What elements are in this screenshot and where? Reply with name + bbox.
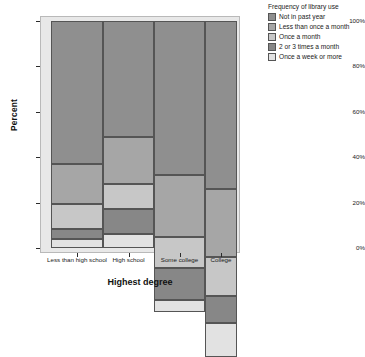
legend-item[interactable]: 2 or 3 times a month	[268, 43, 365, 52]
legend-item-label: Once a week or more	[279, 53, 342, 60]
y-axis-label: Percent	[9, 80, 19, 150]
mosaic-segment	[154, 175, 205, 236]
legend-swatch	[268, 33, 276, 41]
mosaic-segment	[51, 21, 103, 164]
legend-item[interactable]: Once a month	[268, 33, 365, 42]
mosaic-segment	[205, 323, 237, 357]
mosaic-segment	[103, 234, 154, 248]
y-tick-label: 0%	[331, 245, 365, 251]
mosaic-segment	[103, 184, 154, 209]
x-tick-mark	[180, 253, 181, 257]
x-tick-mark	[129, 253, 130, 257]
mosaic-segment	[205, 296, 237, 323]
x-tick-label: College	[191, 256, 251, 264]
mosaic-segment	[205, 189, 237, 257]
legend-item-label: Not in past year	[279, 13, 325, 20]
legend-swatch	[268, 53, 276, 61]
legend-swatch	[268, 13, 276, 21]
x-tick-mark	[77, 253, 78, 257]
x-axis-label: Highest degree	[40, 277, 240, 287]
mosaic-segment	[103, 137, 154, 185]
legend-item[interactable]: Not in past year	[268, 13, 365, 22]
mosaic-segment	[51, 204, 103, 229]
mosaic-segment	[154, 21, 205, 175]
y-tick-label: 80%	[331, 63, 365, 69]
legend-swatch	[268, 43, 276, 51]
legend-item[interactable]: Once a week or more	[268, 53, 365, 62]
mosaic-column	[154, 21, 205, 248]
mosaic-segment	[103, 21, 154, 137]
legend-item[interactable]: Less than once a month	[268, 23, 365, 32]
mosaic-column	[205, 21, 237, 248]
legend-item-label: Less than once a month	[279, 23, 349, 30]
mosaic-segment	[205, 21, 237, 189]
mosaic-segment	[51, 239, 103, 248]
mosaic-segment	[51, 164, 103, 204]
x-tick-mark	[221, 253, 222, 257]
legend-item-label: Once a month	[279, 33, 320, 40]
legend-items: Not in past yearLess than once a monthOn…	[268, 13, 365, 62]
mosaic-segment	[103, 209, 154, 234]
legend-title: Frequency of library use	[268, 3, 365, 10]
mosaic-column	[51, 21, 103, 248]
legend-item-label: 2 or 3 times a month	[279, 43, 339, 50]
mosaic-segment	[154, 300, 205, 311]
legend-swatch	[268, 23, 276, 31]
mosaic-plot-area	[51, 21, 237, 248]
mosaic-segment	[51, 229, 103, 239]
y-tick-label: 20%	[331, 200, 365, 206]
mosaic-column	[103, 21, 154, 248]
y-tick-label: 40%	[331, 154, 365, 160]
legend: Frequency of library use Not in past yea…	[268, 3, 365, 63]
y-tick-label: 60%	[331, 109, 365, 115]
